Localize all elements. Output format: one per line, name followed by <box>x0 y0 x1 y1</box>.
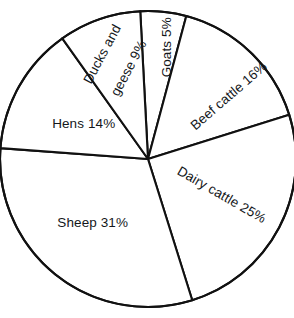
pie-chart: Goats 5% Beef cattle 16% Dairy cattle 25… <box>0 0 294 318</box>
pie-chart-svg <box>0 0 294 318</box>
pie-slice-group <box>0 11 294 307</box>
